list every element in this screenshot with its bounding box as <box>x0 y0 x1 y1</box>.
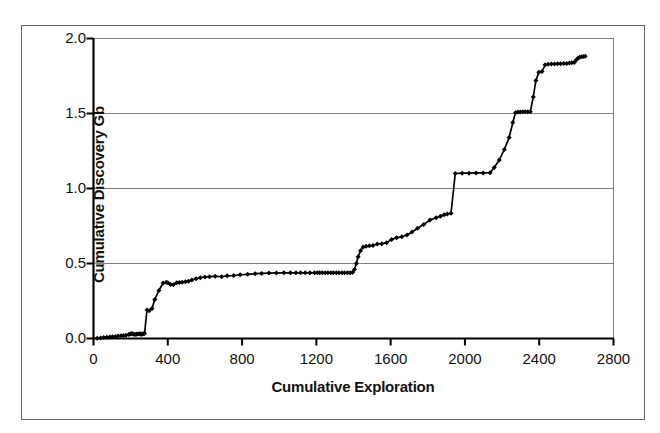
data-point-marker <box>267 271 272 276</box>
data-point-marker <box>238 272 243 277</box>
data-point-marker <box>460 171 465 176</box>
data-point-marker <box>198 275 203 280</box>
data-point-marker <box>531 95 536 100</box>
data-point-marker <box>259 271 264 276</box>
data-point-marker <box>533 78 538 83</box>
data-point-marker <box>293 270 298 275</box>
data-point-marker <box>253 271 258 276</box>
data-point-marker <box>202 275 207 280</box>
data-point-marker <box>245 272 250 277</box>
data-point-marker <box>474 170 479 175</box>
data-point-marker <box>371 243 376 248</box>
data-point-marker <box>281 270 286 275</box>
data-point-marker <box>307 270 312 275</box>
data-point-marker <box>453 171 458 176</box>
data-point-marker <box>467 171 472 176</box>
x-axis <box>93 339 614 346</box>
data-point-markers <box>95 54 588 341</box>
data-point-marker <box>356 254 361 259</box>
figure-container: 0.00.51.01.52.0 040080012001600200024002… <box>0 0 660 433</box>
data-point-marker <box>379 241 384 246</box>
data-point-marker <box>231 273 236 278</box>
data-point-marker <box>303 270 308 275</box>
y-axis-title: Cumulative Discovery Gb <box>90 45 107 345</box>
data-point-marker <box>354 261 359 266</box>
data-series-line <box>97 56 585 338</box>
grid-lines <box>94 114 614 264</box>
data-point-marker <box>434 215 439 220</box>
data-point-marker <box>213 274 218 279</box>
x-axis-title: Cumulative Exploration <box>93 378 613 395</box>
data-point-marker <box>194 276 199 281</box>
data-point-marker <box>375 242 380 247</box>
data-point-marker <box>225 273 230 278</box>
data-point-marker <box>274 270 279 275</box>
data-point-marker <box>449 211 454 216</box>
data-point-marker <box>481 170 486 175</box>
data-point-marker <box>399 234 404 239</box>
data-point-marker <box>394 235 399 240</box>
data-point-marker <box>288 270 293 275</box>
data-point-marker <box>152 297 157 302</box>
data-point-marker <box>207 274 212 279</box>
data-point-marker <box>507 135 512 140</box>
data-point-marker <box>219 274 224 279</box>
data-point-marker <box>510 120 515 125</box>
data-point-marker <box>298 270 303 275</box>
